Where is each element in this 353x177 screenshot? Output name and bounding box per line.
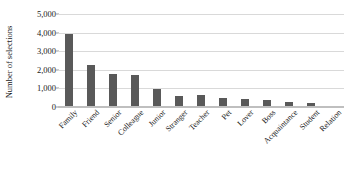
y-axis-tick-label: 2,000 [16,65,56,75]
y-axis-tick-label: 1,000 [16,83,56,93]
bar-series [58,14,344,107]
bar-slot[interactable] [212,14,234,107]
bar[interactable] [65,34,73,107]
bar[interactable] [131,75,139,107]
bar-slot[interactable] [190,14,212,107]
bar[interactable] [109,74,117,107]
bar[interactable] [153,89,161,107]
bar-slot[interactable] [322,14,344,107]
x-axis-tick-label: Friend [80,108,101,129]
bar-chart: Number of selections 5,0004,0003,0002,00… [0,0,353,177]
bar-slot[interactable] [80,14,102,107]
x-axis-line [58,106,344,107]
x-axis-tick-labels: FamilyFriendSeniorColleagueJuniorStrange… [58,108,344,176]
y-axis-tick-label: 5,000 [16,9,56,19]
y-axis-tick-label: 3,000 [16,46,56,56]
bar-slot[interactable] [146,14,168,107]
bar-slot[interactable] [58,14,80,107]
bar-slot[interactable] [278,14,300,107]
y-axis-tick-labels: 5,0004,0003,0002,0001,0000 [14,14,56,107]
bar[interactable] [87,65,95,107]
y-axis-title-text: Number of selections [4,26,14,99]
bar-slot[interactable] [102,14,124,107]
x-axis-tick-label: Family [57,108,79,130]
bar-slot[interactable] [256,14,278,107]
bar-slot[interactable] [234,14,256,107]
x-axis-tick-label: Teacher [187,108,211,132]
x-axis-tick-label: Pet [220,108,234,122]
y-axis-tick-label: 0 [16,102,56,112]
y-axis-tick-label: 4,000 [16,28,56,38]
bar-slot[interactable] [300,14,322,107]
x-axis-tick-label: Lover [235,108,255,128]
x-axis-tick-label: Relation [318,108,344,134]
plot-area [58,14,344,107]
bar-slot[interactable] [168,14,190,107]
x-axis-tick-label: Stranger [164,108,190,134]
x-axis-tick-label: Boss [260,108,277,125]
bar-slot[interactable] [124,14,146,107]
